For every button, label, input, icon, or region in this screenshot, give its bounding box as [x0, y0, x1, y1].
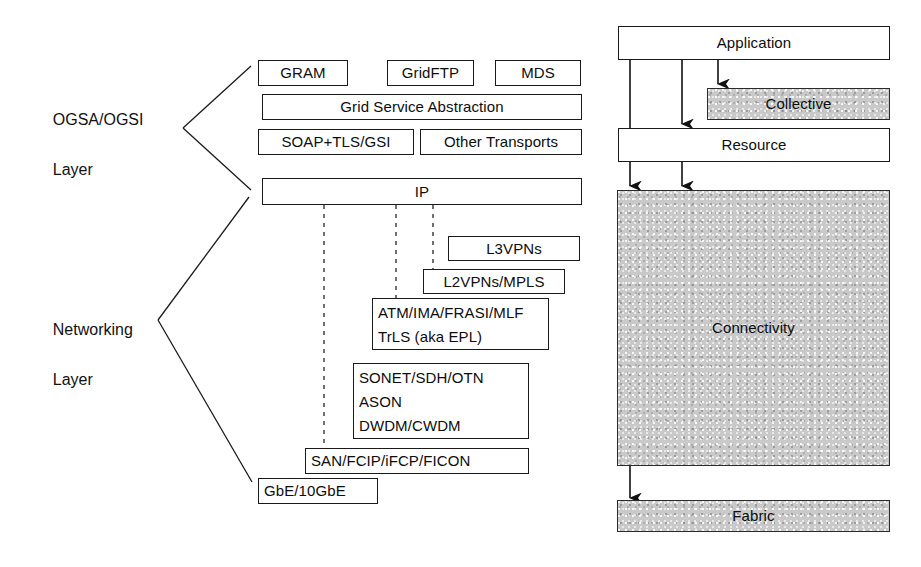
box-optical-line2: ASON	[359, 390, 528, 414]
box-ip: IP	[262, 178, 582, 205]
box-mds: MDS	[495, 60, 581, 86]
box-collective: Collective	[707, 88, 890, 120]
networking-bracket	[158, 197, 252, 482]
box-optical-line3: DWDM/CWDM	[359, 414, 528, 438]
box-grid-service-abstraction: Grid Service Abstraction	[262, 94, 582, 120]
ogsa-layer-label-line1: OGSA/OGSI	[53, 111, 144, 128]
box-fabric: Fabric	[617, 500, 890, 532]
box-atm-trls: ATM/IMA/FRASI/MLF TrLS (aka EPL)	[372, 298, 549, 350]
networking-layer-label-line2: Layer	[53, 371, 93, 388]
box-connectivity: Connectivity	[617, 190, 890, 466]
box-atm-trls-line1: ATM/IMA/FRASI/MLF	[378, 301, 548, 325]
networking-layer-label: Networking Layer	[35, 292, 133, 417]
networking-layer-label-line1: Networking	[53, 321, 133, 338]
box-resource: Resource	[618, 128, 890, 162]
ogsa-bracket	[183, 66, 251, 190]
box-optical-transport: SONET/SDH/OTN ASON DWDM/CWDM	[353, 363, 529, 439]
box-l3vpns: L3VPNs	[448, 236, 580, 261]
box-san-fcip-ifcp-ficon: SAN/FCIP/iFCP/FICON	[305, 448, 529, 474]
ogsa-layer-label-line2: Layer	[53, 161, 93, 178]
diagram-canvas: OGSA/OGSI Layer Networking Layer GRAM Gr…	[0, 0, 921, 567]
box-soap-tls-gsi: SOAP+TLS/GSI	[258, 129, 414, 155]
box-optical-line1: SONET/SDH/OTN	[359, 366, 528, 390]
box-gram: GRAM	[258, 60, 348, 86]
ogsa-layer-label: OGSA/OGSI Layer	[35, 82, 143, 207]
box-other-transports: Other Transports	[420, 129, 582, 155]
box-gbe-10gbe: GbE/10GbE	[258, 478, 378, 504]
box-gridftp: GridFTP	[387, 60, 474, 86]
box-application: Application	[618, 26, 890, 60]
box-atm-trls-line2: TrLS (aka EPL)	[378, 325, 548, 349]
box-l2vpns-mpls: L2VPNs/MPLS	[423, 269, 565, 294]
